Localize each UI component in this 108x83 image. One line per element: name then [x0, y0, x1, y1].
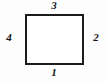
rectangle-side-labels-diagram: 3 2 1 4 [0, 0, 108, 83]
side-label-top: 3 [48, 0, 60, 11]
side-label-bottom: 1 [48, 67, 60, 78]
rectangle-shape [25, 14, 84, 65]
side-label-right: 2 [90, 32, 102, 43]
side-label-left: 4 [3, 32, 15, 43]
